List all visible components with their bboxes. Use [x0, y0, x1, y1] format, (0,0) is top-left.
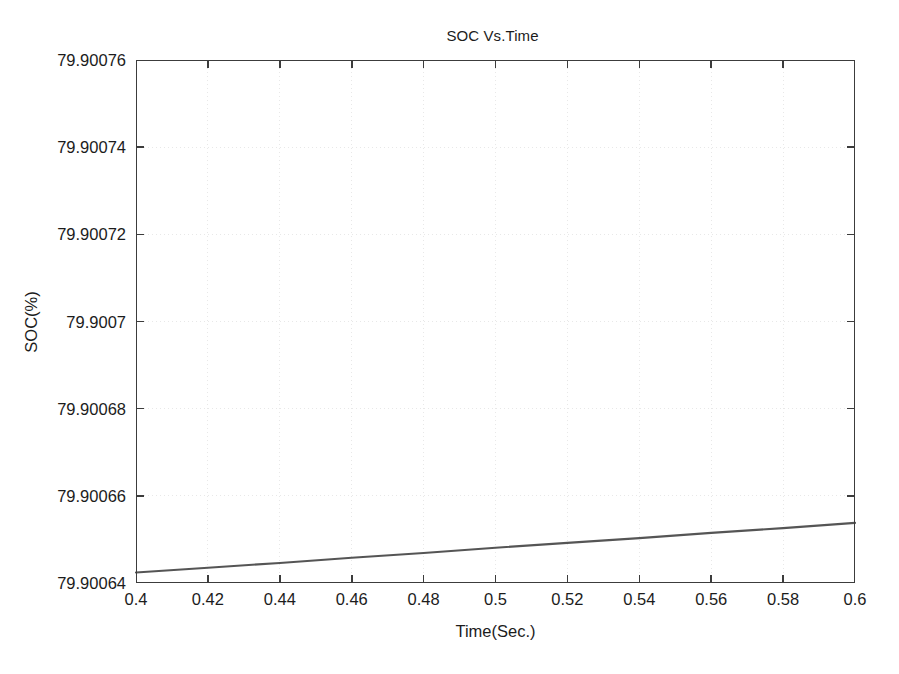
x-tick-label: 0.4 [125, 590, 148, 609]
x-tick-label: 0.56 [695, 590, 727, 609]
y-tick-label: 79.90072 [57, 225, 126, 244]
x-axis-label: Time(Sec.) [136, 622, 855, 641]
x-tick-label: 0.42 [192, 590, 224, 609]
x-tick-label: 0.48 [408, 590, 440, 609]
x-tick-label: 0.6 [844, 590, 867, 609]
figure-canvas: SOC Vs.Time SOC(%) 79.9006479.9006679.90… [0, 0, 899, 674]
x-axis-tick-labels: 0.40.420.440.460.480.50.520.540.560.580.… [136, 590, 855, 616]
x-tick-label: 0.54 [623, 590, 655, 609]
x-tick-label: 0.5 [484, 590, 507, 609]
x-tick-label: 0.52 [551, 590, 583, 609]
y-tick-label: 79.90066 [57, 486, 126, 505]
x-tick-label: 0.44 [264, 590, 296, 609]
x-tick-label: 0.58 [767, 590, 799, 609]
chart-title: SOC Vs.Time [0, 27, 899, 44]
axes-frame [136, 60, 855, 583]
y-tick-label: 79.90068 [57, 399, 126, 418]
y-axis-tick-labels: 79.9006479.9006679.9006879.900779.900727… [0, 60, 126, 583]
x-tick-label: 0.46 [336, 590, 368, 609]
y-tick-label: 79.90064 [57, 574, 126, 593]
y-tick-label: 79.90074 [57, 138, 126, 157]
y-tick-label: 79.9007 [66, 312, 126, 331]
chart-title-text: SOC Vs.Time [446, 27, 538, 44]
y-tick-label: 79.90076 [57, 51, 126, 70]
plot-area [136, 60, 855, 583]
